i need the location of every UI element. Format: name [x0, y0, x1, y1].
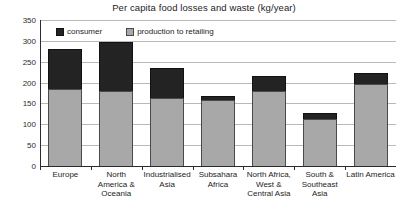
- y-axis-line: [40, 20, 41, 167]
- bar-segment-consumer: [252, 76, 286, 92]
- x-axis-label-line: Asia: [142, 180, 193, 190]
- black-square-icon: [56, 28, 64, 36]
- chart-title: Per capita food losses and waste (kg/yea…: [0, 2, 408, 13]
- x-axis-label-line: Europe: [40, 170, 91, 180]
- x-axis-label: Latin America: [345, 170, 396, 180]
- chart-legend: consumer production to retailing: [56, 27, 214, 36]
- x-axis-label-line: America &: [91, 180, 142, 190]
- y-axis-tick-label: 150: [2, 99, 36, 108]
- bar-0: [48, 49, 82, 166]
- x-axis-label-line: Africa: [193, 180, 244, 190]
- bar-2: [150, 68, 184, 166]
- y-axis-tick-label: 250: [2, 57, 36, 66]
- x-axis-label-line: South &: [294, 170, 345, 180]
- y-axis-tick-label: 50: [2, 141, 36, 150]
- y-axis-tick-label: 200: [2, 78, 36, 87]
- bar-segment-production: [150, 98, 184, 166]
- x-axis-label-line: Latin America: [345, 170, 396, 180]
- x-axis-label-line: West &: [243, 180, 294, 190]
- gray-square-icon: [126, 28, 134, 36]
- bar-segment-production: [48, 89, 82, 166]
- x-axis-line: [40, 166, 396, 167]
- x-axis-label: Europe: [40, 170, 91, 180]
- gridline: [40, 41, 396, 42]
- x-axis-label-line: Central Asia: [243, 189, 294, 199]
- gridline: [40, 20, 396, 21]
- y-axis-tick-label: 300: [2, 36, 36, 45]
- y-axis-tick-labels: 350300250200150100500: [0, 0, 36, 213]
- x-axis-label: North Africa,West &Central Asia: [243, 170, 294, 199]
- bar-segment-consumer: [48, 49, 82, 89]
- gridline: [40, 62, 396, 63]
- bar-3: [201, 96, 235, 166]
- x-axis-label-line: Asia: [294, 189, 345, 199]
- bar-segment-consumer: [99, 42, 133, 91]
- bar-segment-production: [354, 84, 388, 166]
- y-axis-tick-label: 0: [2, 162, 36, 171]
- gridline: [40, 83, 396, 84]
- x-axis-label-line: North: [91, 170, 142, 180]
- legend-entry-consumer: consumer: [56, 27, 102, 36]
- x-axis-label: NorthAmerica &Oceania: [91, 170, 142, 199]
- bar-segment-production: [252, 91, 286, 166]
- y-axis-tick-label: 100: [2, 120, 36, 129]
- bar-segment-consumer: [354, 73, 388, 83]
- bar-1: [99, 42, 133, 166]
- legend-entry-production: production to retailing: [126, 27, 214, 36]
- x-axis-label-line: Oceania: [91, 189, 142, 199]
- y-axis-tick-label: 350: [2, 16, 36, 25]
- legend-label-consumer: consumer: [67, 27, 102, 36]
- chart-container: Per capita food losses and waste (kg/yea…: [0, 0, 408, 213]
- x-axis-label: South &SoutheastAsia: [294, 170, 345, 199]
- x-axis-label-line: Subsahara: [193, 170, 244, 180]
- bar-segment-production: [201, 100, 235, 166]
- bar-4: [252, 76, 286, 167]
- x-axis-label-line: Industrialised: [142, 170, 193, 180]
- x-axis-label-line: North Africa,: [243, 170, 294, 180]
- bar-segment-production: [303, 119, 337, 166]
- bar-6: [354, 73, 388, 166]
- x-axis-label: IndustrialisedAsia: [142, 170, 193, 189]
- bar-5: [303, 113, 337, 166]
- x-axis-label: SubsaharaAfrica: [193, 170, 244, 189]
- bar-segment-production: [99, 91, 133, 166]
- x-axis-label-line: Southeast: [294, 180, 345, 190]
- legend-label-production: production to retailing: [137, 27, 214, 36]
- bar-segment-consumer: [150, 68, 184, 98]
- plot-area: [40, 20, 396, 166]
